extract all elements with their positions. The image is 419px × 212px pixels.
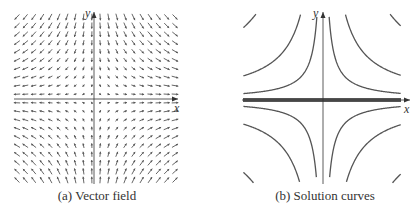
- x-axis-label: x: [173, 101, 180, 115]
- caption-vector-field: (a) Vector field: [58, 188, 136, 204]
- solution-curves-plot: x y: [210, 0, 419, 212]
- caption-solution-curves: (b) Solution curves: [275, 188, 375, 204]
- vector-field-panel: x y (a) Vector field: [0, 0, 200, 212]
- vector-field-plot: x y: [0, 0, 200, 212]
- x-axis-label: x: [403, 102, 410, 116]
- y-axis-arrowhead-icon: [321, 12, 326, 18]
- solution-curves-panel: x y (b) Solution curves: [210, 0, 419, 212]
- solution-curves: [243, 14, 401, 183]
- y-axis-label: y: [312, 6, 319, 20]
- y-axis-label: y: [84, 6, 91, 20]
- vector-field-arrows: [14, 14, 178, 184]
